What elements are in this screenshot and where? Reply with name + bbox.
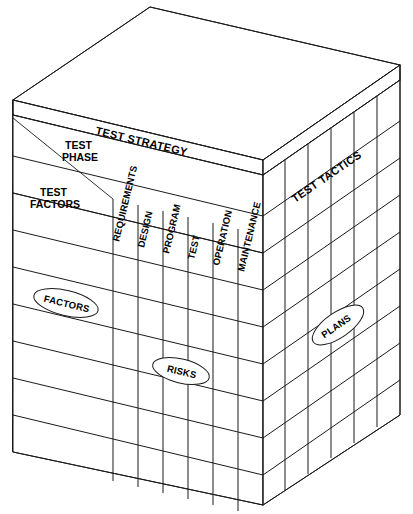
column-axis-label: TEST PHASE <box>62 139 98 163</box>
front-face <box>13 115 263 511</box>
row-axis-label-line1: TEST <box>40 186 67 198</box>
column-axis-label-line1: TEST <box>65 139 92 151</box>
test-strategy-cube-diagram: TEST STRATEGY TEST PHASE TEST FACTORS RE… <box>0 0 413 514</box>
column-axis-label-line2: PHASE <box>62 151 98 163</box>
row-axis-label-line2: FACTORS <box>30 198 80 210</box>
cube-svg-canvas: TEST STRATEGY TEST PHASE TEST FACTORS RE… <box>0 0 413 514</box>
